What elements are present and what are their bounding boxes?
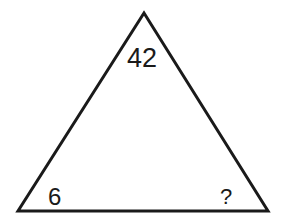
bottom-left-value: 6: [48, 185, 61, 209]
top-value: 42: [127, 45, 157, 72]
triangle-shape: [0, 0, 281, 224]
triangle-puzzle: 42 6 ?: [0, 0, 281, 224]
bottom-right-unknown: ?: [220, 186, 232, 208]
